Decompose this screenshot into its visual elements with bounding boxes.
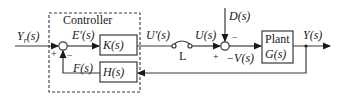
j1-plus-sign: + (51, 48, 57, 59)
sensor-block-label: H(s) (102, 65, 124, 79)
junction2-output-label: −V(s) (226, 51, 254, 65)
summing-junction-1 (59, 42, 67, 50)
switch-arc (174, 41, 190, 44)
output-label: Y(s) (303, 28, 322, 42)
error-label: E'(s) (71, 28, 95, 42)
reference-label: Yr(s) (17, 29, 39, 45)
plant-block-label: G(s) (265, 47, 286, 61)
block-diagram: Controller Yr(s) + − E'(s) K(s) H(s) F(s… (0, 0, 343, 98)
controller-label: Controller (63, 13, 112, 27)
summing-junction-2 (221, 42, 229, 50)
switch-label: L (179, 49, 186, 63)
j1-minus-sign: − (67, 50, 73, 61)
j2-plus-sign: + (213, 51, 219, 62)
switch-contact-right (188, 44, 192, 48)
disturbance-label: D(s) (228, 9, 250, 23)
j2-minus-sign: − (232, 32, 238, 43)
plant-title: Plant (265, 32, 290, 46)
controller-output-label: U'(s) (146, 28, 170, 42)
switch-contact-left (172, 44, 176, 48)
plant-input-label: U(s) (195, 28, 216, 42)
controller-block-label: K(s) (102, 38, 124, 52)
feedback-label: F(s) (72, 61, 93, 75)
